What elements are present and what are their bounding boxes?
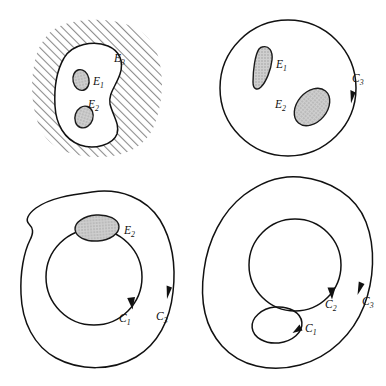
arrowhead-c3 xyxy=(358,282,365,296)
arrowhead-c1 xyxy=(293,325,303,334)
label-e2: E2 xyxy=(274,98,286,113)
contour-c3 xyxy=(220,20,356,156)
panel-bottom-right: C2 C3 C1 xyxy=(203,177,374,369)
label-e2: E2 xyxy=(123,224,135,239)
panel-top-left: E3 E1 E2 xyxy=(20,10,180,170)
arrowhead-c3 xyxy=(167,286,172,300)
contour-c3 xyxy=(203,177,373,369)
blob-e2 xyxy=(74,213,120,242)
label-c2: C2 xyxy=(325,298,337,313)
panel-top-right: E1 E2 C3 xyxy=(220,20,364,156)
label-c1: C1 xyxy=(305,322,317,337)
figure-root: E3 E1 E2 E1 E2 C3 xyxy=(0,0,386,386)
figure-canvas: E3 E1 E2 E1 E2 C3 xyxy=(0,0,386,386)
blob-e2 xyxy=(287,81,337,132)
label-e1: E1 xyxy=(275,58,287,73)
label-c3: C3 xyxy=(156,310,168,325)
label-c1: C1 xyxy=(119,312,131,327)
blob-e1 xyxy=(253,47,272,89)
panel-bottom-left: E2 C1 C3 xyxy=(21,191,174,367)
contour-c1 xyxy=(46,229,142,325)
label-c3: C3 xyxy=(352,72,364,87)
